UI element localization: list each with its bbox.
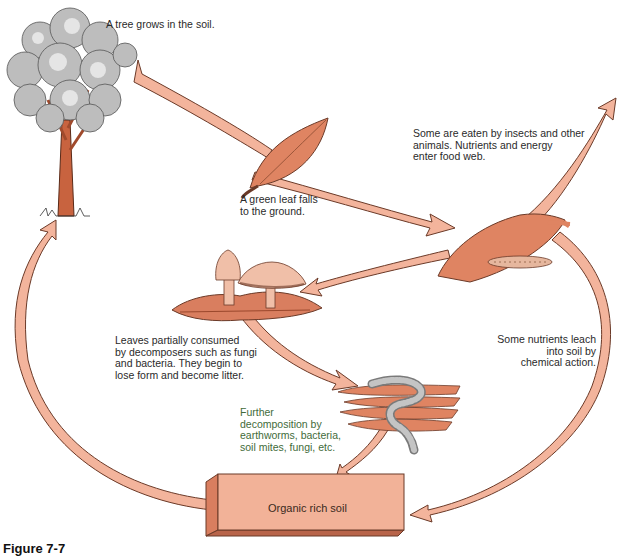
label-decomposers: Leaves partially consumed by decomposers… [115, 335, 257, 381]
litter-leaf [438, 214, 570, 282]
label-organic-soil: Organic rich soil [268, 503, 347, 515]
tree-illustration [7, 8, 137, 216]
label-leach: Some nutrients leach into soil by chemic… [462, 334, 596, 369]
arrow-tree-to-leaf [134, 60, 272, 158]
insect-larva [488, 256, 552, 268]
arrow-to-decomposers [300, 250, 450, 296]
arrow-to-soil [336, 426, 388, 478]
arrow-to-further-decomposition [240, 310, 358, 390]
figure-caption: Figure 7-7 [3, 541, 65, 556]
tree-trunk [58, 120, 74, 216]
label-food-web: Some are eaten by insects and other anim… [413, 128, 585, 163]
arrow-to-food-web [520, 98, 616, 228]
label-further-decomposition: Further decomposition by earthworms, bac… [240, 407, 341, 453]
label-leaf-fall: A green leaf falls to the ground. [240, 194, 318, 217]
mushrooms-on-litter [172, 250, 322, 321]
label-tree: A tree grows in the soil. [106, 19, 215, 31]
earthworm-in-soil [338, 380, 460, 450]
litter-layer [172, 292, 322, 321]
